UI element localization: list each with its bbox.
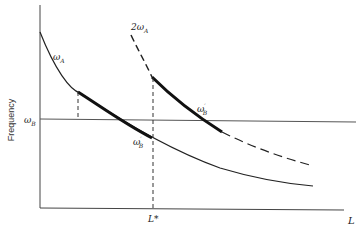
omega-a-curve bbox=[40, 32, 313, 186]
l-star-label: L* bbox=[147, 214, 159, 224]
two-omega-a-dashed-top bbox=[131, 35, 152, 77]
omega-b-prime-label-lower: ω′B bbox=[133, 135, 144, 149]
frequency-diagram: Frequency L ωB ωA 2ωA L* ω′B ω′B bbox=[0, 0, 364, 234]
omega-a-bold-segment bbox=[78, 92, 152, 138]
y-axis-label: Frequency bbox=[6, 98, 16, 141]
x-axis-label: L bbox=[347, 215, 355, 226]
two-omega-a-bold-segment bbox=[152, 77, 222, 132]
omega-b-prime-label-upper: ω′B bbox=[197, 102, 208, 116]
omega-a-label: ωA bbox=[53, 52, 65, 64]
omega-b-label: ωB bbox=[24, 115, 36, 127]
x-axis bbox=[40, 208, 344, 210]
two-omega-a-label: 2ωA bbox=[130, 22, 149, 34]
omega-b-line bbox=[40, 119, 356, 122]
two-omega-a-dashed-tail bbox=[222, 132, 310, 165]
